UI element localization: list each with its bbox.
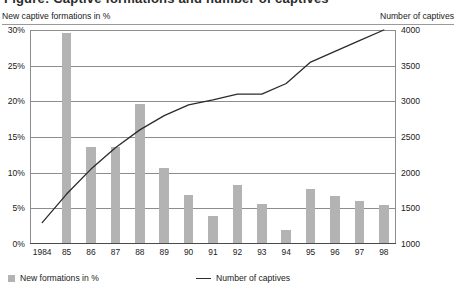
y-axis-tick-left: 0% xyxy=(13,240,25,249)
legend-item-line: Number of captives xyxy=(196,273,290,283)
y-axis-tick-right: 3000 xyxy=(401,97,420,106)
y-axis-tick-right: 4000 xyxy=(401,26,420,35)
captives-line-series xyxy=(30,30,396,244)
x-axis-tick-1984: 1984 xyxy=(33,248,52,256)
right-axis-caption: Number of captives xyxy=(380,11,454,21)
x-axis-tick-85: 85 xyxy=(62,248,71,256)
x-axis-tick-86: 86 xyxy=(86,248,95,256)
x-axis-tick-87: 87 xyxy=(111,248,120,256)
y-axis-tick-right: 2500 xyxy=(401,133,420,142)
line-swatch-icon xyxy=(196,278,211,279)
chart-container: Figure: Captive formations and number of… xyxy=(0,0,456,292)
cut-off-title: Figure: Captive formations and number of… xyxy=(0,0,456,9)
title-text: Figure: Captive formations and number of… xyxy=(4,0,329,6)
x-axis-tick-90: 90 xyxy=(184,248,193,256)
caption-divider xyxy=(2,24,454,25)
plot-area: 0%10005%150010%200015%250020%300025%3500… xyxy=(30,30,396,244)
x-axis-tick-94: 94 xyxy=(282,248,291,256)
x-axis-tick-98: 98 xyxy=(379,248,388,256)
legend-label-bars: New formations in % xyxy=(20,273,99,283)
captives-line-path xyxy=(42,30,384,223)
y-axis-tick-right: 2000 xyxy=(401,169,420,178)
legend-label-line: Number of captives xyxy=(216,273,290,283)
y-axis-tick-right: 3500 xyxy=(401,62,420,71)
legend-item-bars: New formations in % xyxy=(8,273,99,283)
y-axis-tick-left: 10% xyxy=(8,169,25,178)
x-axis-tick-93: 93 xyxy=(257,248,266,256)
y-axis-tick-left: 5% xyxy=(13,204,25,213)
left-axis-caption: New captive formations in % xyxy=(2,11,110,21)
x-axis-tick-88: 88 xyxy=(135,248,144,256)
y-axis-tick-right: 1500 xyxy=(401,204,420,213)
chart-legend: New formations in % Number of captives xyxy=(0,270,456,292)
y-axis-tick-right: 1000 xyxy=(401,240,420,249)
bar-swatch-icon xyxy=(8,275,15,282)
y-axis-tick-left: 20% xyxy=(8,97,25,106)
x-axis-tick-91: 91 xyxy=(208,248,217,256)
x-axis-tick-92: 92 xyxy=(233,248,242,256)
y-axis-tick-left: 30% xyxy=(8,26,25,35)
x-axis-tick-97: 97 xyxy=(355,248,364,256)
y-axis-tick-left: 15% xyxy=(8,133,25,142)
x-axis-tick-89: 89 xyxy=(160,248,169,256)
x-axis-tick-96: 96 xyxy=(330,248,339,256)
y-axis-tick-left: 25% xyxy=(8,62,25,71)
x-axis-tick-95: 95 xyxy=(306,248,315,256)
